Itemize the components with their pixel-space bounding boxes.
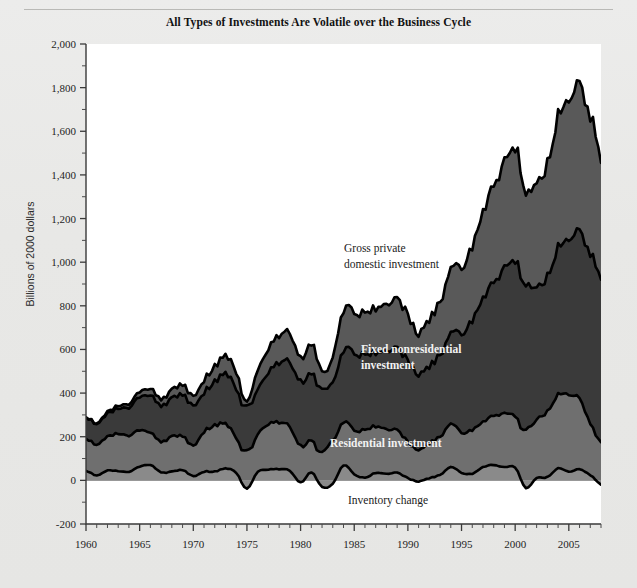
x-tick-label: 1960 <box>75 538 98 550</box>
x-tick-label: 1975 <box>236 538 259 550</box>
y-tick-label: 200 <box>60 431 77 443</box>
y-tick-label: 0 <box>71 474 77 486</box>
chart-plot: 2,0001,8001,6001,4001,2001,0008006004002… <box>0 0 637 588</box>
x-tick-label: 1965 <box>129 538 152 550</box>
x-tick-label: 1995 <box>451 538 474 550</box>
chart-figure: All Types of Investments Are Volatile ov… <box>0 0 637 588</box>
y-tick-label: 1,000 <box>51 256 76 268</box>
x-tick-label: 1970 <box>182 538 205 550</box>
y-tick-label: 1,200 <box>51 213 76 225</box>
x-tick-label: 1980 <box>290 538 313 550</box>
y-tick-label: 1,400 <box>51 169 76 181</box>
y-tick-label: -200 <box>56 518 77 530</box>
x-tick-label: 2005 <box>558 538 581 550</box>
x-tick-label: 1985 <box>343 538 366 550</box>
x-axis-ticks: 1960196519701975198019851990199520002005 <box>75 524 601 550</box>
x-tick-label: 2000 <box>504 538 527 550</box>
y-tick-label: 1,800 <box>51 82 76 94</box>
y-tick-label: 2,000 <box>51 38 76 50</box>
x-tick-label: 1990 <box>397 538 420 550</box>
y-tick-label: 600 <box>60 343 77 355</box>
y-tick-label: 400 <box>60 387 77 399</box>
y-tick-label: 800 <box>60 300 77 312</box>
y-tick-label: 1,600 <box>51 125 76 137</box>
y-axis-ticks: 2,0001,8001,6001,4001,2001,0008006004002… <box>51 38 86 530</box>
